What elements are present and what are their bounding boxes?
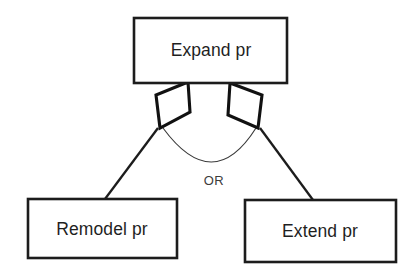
decision-diamond-right[interactable] — [228, 83, 262, 128]
decision-diamond-left[interactable] — [156, 82, 190, 128]
node-label-extend: Extend pr — [282, 221, 358, 241]
connector-expand-to-extend — [260, 128, 313, 200]
connector-expand-to-remodel — [105, 128, 158, 199]
or-arc — [163, 128, 256, 162]
node-label-expand: Expand pr — [171, 40, 252, 60]
node-label-remodel: Remodel pr — [56, 219, 148, 239]
or-label: OR — [204, 173, 224, 188]
diagram-canvas: Expand pr Remodel pr Extend pr OR — [0, 0, 416, 279]
diagram-svg: Expand pr Remodel pr Extend pr OR — [0, 0, 416, 279]
